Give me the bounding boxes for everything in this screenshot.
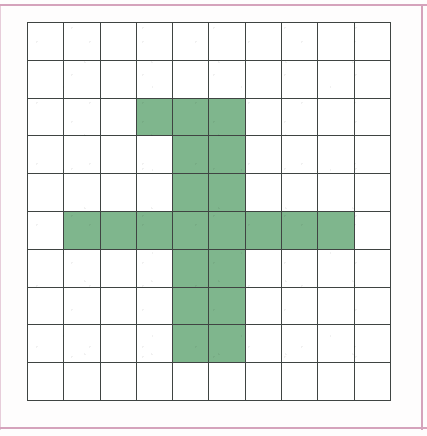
grid-cell-shaded[interactable] — [209, 174, 245, 212]
grid-cell-empty[interactable] — [318, 287, 354, 325]
grid-cell-shaded[interactable] — [100, 211, 136, 249]
grid-cell-empty[interactable] — [28, 325, 64, 363]
grid-cell-empty[interactable] — [28, 60, 64, 98]
grid-cell-empty[interactable] — [100, 249, 136, 287]
grid-cell-empty[interactable] — [28, 211, 64, 249]
grid-cell-empty[interactable] — [282, 325, 318, 363]
grid-cell-empty[interactable] — [209, 363, 245, 401]
grid-cell-empty[interactable] — [100, 136, 136, 174]
grid-cell-empty[interactable] — [282, 249, 318, 287]
grid-cell-shaded[interactable] — [173, 136, 209, 174]
grid-cell-shaded[interactable] — [209, 287, 245, 325]
grid-cell-empty[interactable] — [282, 23, 318, 61]
grid-cell-empty[interactable] — [318, 363, 354, 401]
grid-cell-empty[interactable] — [318, 325, 354, 363]
grid-cell-empty[interactable] — [209, 23, 245, 61]
grid-cell-empty[interactable] — [64, 249, 100, 287]
grid-cell-shaded[interactable] — [282, 211, 318, 249]
grid-cell-empty[interactable] — [136, 287, 172, 325]
grid-cell-empty[interactable] — [100, 174, 136, 212]
grid-cell-empty[interactable] — [173, 60, 209, 98]
grid-cell-empty[interactable] — [282, 287, 318, 325]
grid-cell-empty[interactable] — [64, 363, 100, 401]
grid-cell-empty[interactable] — [136, 23, 172, 61]
grid-cell-empty[interactable] — [64, 136, 100, 174]
grid-cell-empty[interactable] — [64, 60, 100, 98]
grid-cell-empty[interactable] — [318, 174, 354, 212]
grid-cell-empty[interactable] — [64, 287, 100, 325]
grid-cell-empty[interactable] — [282, 174, 318, 212]
grid-cell-empty[interactable] — [318, 249, 354, 287]
grid-cell-empty[interactable] — [28, 98, 64, 136]
grid-cell-empty[interactable] — [136, 60, 172, 98]
grid-cell-empty[interactable] — [173, 23, 209, 61]
grid-cell-empty[interactable] — [209, 60, 245, 98]
grid-cell-shaded[interactable] — [173, 287, 209, 325]
grid-cell-empty[interactable] — [245, 287, 281, 325]
grid-cell-empty[interactable] — [318, 23, 354, 61]
grid-cell-empty[interactable] — [354, 98, 390, 136]
grid-cell-empty[interactable] — [354, 211, 390, 249]
grid-cell-empty[interactable] — [64, 98, 100, 136]
grid-cell-empty[interactable] — [64, 325, 100, 363]
grid-cell-shaded[interactable] — [209, 249, 245, 287]
grid-cell-empty[interactable] — [100, 23, 136, 61]
grid-cell-empty[interactable] — [354, 23, 390, 61]
grid-cell-empty[interactable] — [64, 174, 100, 212]
grid-cell-empty[interactable] — [100, 363, 136, 401]
grid-cell-empty[interactable] — [245, 136, 281, 174]
grid-cell-empty[interactable] — [245, 325, 281, 363]
grid-cell-empty[interactable] — [64, 23, 100, 61]
grid-cell-empty[interactable] — [28, 136, 64, 174]
grid-cell-empty[interactable] — [318, 60, 354, 98]
grid-cell-empty[interactable] — [282, 98, 318, 136]
grid-cell-empty[interactable] — [28, 287, 64, 325]
grid-cell-empty[interactable] — [136, 136, 172, 174]
grid-cell-empty[interactable] — [318, 98, 354, 136]
grid-cell-shaded[interactable] — [318, 211, 354, 249]
grid-cell-empty[interactable] — [282, 60, 318, 98]
grid-cell-empty[interactable] — [173, 363, 209, 401]
grid-cell-empty[interactable] — [136, 363, 172, 401]
grid-cell-shaded[interactable] — [209, 325, 245, 363]
grid-cell-empty[interactable] — [28, 23, 64, 61]
grid-cell-shaded[interactable] — [173, 174, 209, 212]
grid-cell-empty[interactable] — [28, 363, 64, 401]
grid-cell-empty[interactable] — [354, 174, 390, 212]
grid-cell-empty[interactable] — [354, 287, 390, 325]
grid-cell-empty[interactable] — [245, 60, 281, 98]
grid-cell-empty[interactable] — [318, 136, 354, 174]
grid-cell-empty[interactable] — [28, 174, 64, 212]
grid-cell-shaded[interactable] — [245, 211, 281, 249]
grid-cell-shaded[interactable] — [136, 211, 172, 249]
grid-cell-shaded[interactable] — [173, 325, 209, 363]
grid-cell-shaded[interactable] — [209, 211, 245, 249]
grid-cell-empty[interactable] — [245, 249, 281, 287]
grid-cell-empty[interactable] — [100, 98, 136, 136]
grid-cell-empty[interactable] — [245, 98, 281, 136]
grid-cell-shaded[interactable] — [173, 211, 209, 249]
grid-cell-empty[interactable] — [28, 249, 64, 287]
grid-cell-shaded[interactable] — [64, 211, 100, 249]
grid-cell-empty[interactable] — [245, 363, 281, 401]
grid-cell-empty[interactable] — [136, 325, 172, 363]
grid-cell-shaded[interactable] — [136, 98, 172, 136]
grid-cell-empty[interactable] — [245, 23, 281, 61]
grid-cell-empty[interactable] — [100, 287, 136, 325]
grid-cell-empty[interactable] — [282, 363, 318, 401]
grid-cell-empty[interactable] — [136, 174, 172, 212]
grid-cell-shaded[interactable] — [209, 98, 245, 136]
grid-cell-empty[interactable] — [100, 60, 136, 98]
grid-cell-empty[interactable] — [354, 363, 390, 401]
grid-cell-empty[interactable] — [282, 136, 318, 174]
grid-cell-empty[interactable] — [136, 249, 172, 287]
grid-cell-empty[interactable] — [354, 60, 390, 98]
grid-cell-empty[interactable] — [354, 249, 390, 287]
grid-cell-shaded[interactable] — [173, 249, 209, 287]
grid-cell-empty[interactable] — [354, 136, 390, 174]
grid-cell-empty[interactable] — [100, 325, 136, 363]
grid-cell-shaded[interactable] — [209, 136, 245, 174]
grid-cell-empty[interactable] — [354, 325, 390, 363]
grid-cell-shaded[interactable] — [173, 98, 209, 136]
grid-cell-empty[interactable] — [245, 174, 281, 212]
